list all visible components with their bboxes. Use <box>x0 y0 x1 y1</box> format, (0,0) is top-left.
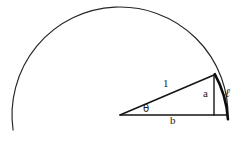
label-radius: 1 <box>163 78 169 89</box>
label-opposite-side: a <box>203 88 208 99</box>
label-arc-length: ℓ <box>225 87 230 99</box>
label-theta-angle: θ <box>143 104 149 114</box>
label-adjacent-side: b <box>170 115 176 126</box>
geometry-figure: 1 θ a b ℓ <box>0 0 238 150</box>
circle-arc <box>12 7 228 130</box>
figure-canvas <box>0 0 238 150</box>
